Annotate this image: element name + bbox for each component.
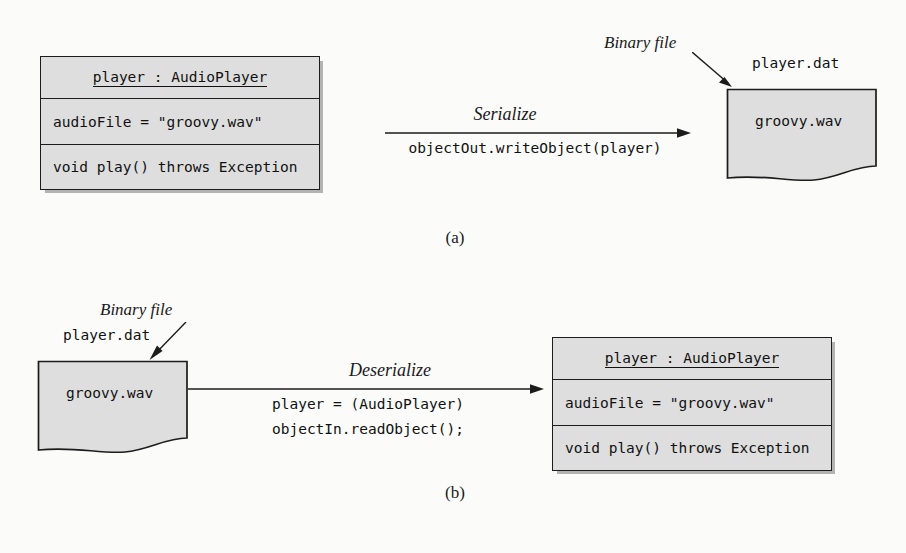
binary-file-shape-panel-b [37, 360, 189, 458]
callout-binary-file-panel-b: Binary file [100, 300, 172, 320]
object-box-title-row: player : AudioPlayer [41, 57, 319, 99]
file-content-label-panel-a: groovy.wav [755, 113, 842, 129]
transition-label-serialize: Serialize [425, 104, 585, 125]
file-name-label-panel-a: player.dat [752, 55, 839, 71]
object-box-operation: void play() throws Exception [41, 145, 319, 189]
panel-caption-b: (b) [405, 483, 505, 503]
object-box-panel-b: player : AudioPlayer audioFile = "groovy… [552, 337, 832, 471]
object-box-title: player : AudioPlayer [93, 69, 268, 87]
object-box-title: player : AudioPlayer [605, 350, 780, 368]
object-box-attribute: audioFile = "groovy.wav" [41, 99, 319, 145]
transition-label-deserialize: Deserialize [300, 360, 480, 381]
transition-code-deserialize-line-1: player = (AudioPlayer) [218, 396, 518, 412]
object-box-panel-a: player : AudioPlayer audioFile = "groovy… [40, 56, 320, 190]
binary-file-shape-panel-a [726, 88, 878, 186]
file-content-label-panel-b: groovy.wav [66, 385, 153, 401]
object-box-title-row: player : AudioPlayer [553, 338, 831, 380]
transition-code-serialize: objectOut.writeObject(player) [375, 140, 695, 156]
object-box-attribute: audioFile = "groovy.wav" [553, 380, 831, 426]
file-name-label-panel-b: player.dat [63, 327, 150, 343]
object-box-operation: void play() throws Exception [553, 426, 831, 470]
transition-code-deserialize-line-2: objectIn.readObject(); [218, 421, 518, 437]
figure-serialization-diagram: player : AudioPlayer audioFile = "groovy… [0, 0, 906, 553]
callout-binary-file-panel-a: Binary file [604, 33, 676, 53]
panel-caption-a: (a) [405, 228, 505, 248]
